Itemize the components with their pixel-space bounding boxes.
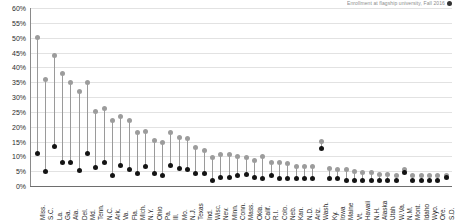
x-axis-tick-label: Mass. <box>248 188 254 220</box>
x-axis-tick-label: S.D. <box>449 188 455 220</box>
data-point-lower <box>202 171 207 176</box>
x-axis-tick-label: Conn. <box>240 188 246 220</box>
connector-line <box>179 137 180 168</box>
connector-line <box>37 38 38 154</box>
connector-line <box>229 155 230 177</box>
data-point-upper <box>344 167 349 172</box>
data-point-lower <box>43 169 48 174</box>
y-axis-tick-label: 15% <box>12 138 26 145</box>
x-axis-tick-label: Ark. <box>115 188 121 220</box>
data-point-upper <box>277 160 282 165</box>
data-point-lower <box>127 167 132 172</box>
data-point-lower <box>335 176 340 181</box>
x-axis-tick-label: Utah <box>390 188 396 220</box>
connector-line <box>195 147 196 173</box>
x-axis-tick-label: Tenn. <box>98 188 104 220</box>
data-point-lower <box>294 176 299 181</box>
connector-line <box>104 109 105 162</box>
data-point-upper <box>168 130 173 135</box>
data-point-upper <box>152 138 157 143</box>
x-axis-tick-label: N.M. <box>407 188 413 220</box>
data-point-upper <box>310 164 315 169</box>
x-axis-tick-label: Ore. <box>440 188 446 220</box>
connector-line <box>187 139 188 170</box>
x-axis-tick-label: Mich. <box>140 188 146 220</box>
x-axis-tick-label: Ohio <box>157 188 163 220</box>
data-point-lower <box>269 173 274 178</box>
y-axis-tick-label: 30% <box>12 94 26 101</box>
x-axis-tick-label: Maine <box>348 188 354 220</box>
x-axis-tick-label: Iowa <box>340 188 346 220</box>
connector-line <box>112 121 113 175</box>
data-point-lower <box>160 173 165 178</box>
y-axis-tick-label: 5% <box>16 168 26 175</box>
data-point-upper <box>352 169 357 174</box>
x-axis-tick-label: Wisc. <box>215 188 221 220</box>
data-point-upper <box>110 118 115 123</box>
data-point-lower <box>35 151 40 156</box>
y-axis-labels: 0%5%10%15%20%25%30%35%40%45%50%55%60% <box>0 8 28 186</box>
data-point-lower <box>327 176 332 181</box>
chart-screenshot: Enrollment at flagship university, Fall … <box>0 0 456 221</box>
data-point-lower <box>252 175 257 180</box>
x-axis-tick-label: Alaska <box>382 188 388 220</box>
connector-line <box>54 55 55 146</box>
connector-line <box>145 131 146 166</box>
y-axis-tick-label: 10% <box>12 153 26 160</box>
data-point-upper <box>235 154 240 159</box>
x-axis-tick-label: Nev. <box>223 188 229 220</box>
y-axis-tick-label: 50% <box>12 34 26 41</box>
data-point-lower <box>260 176 265 181</box>
y-axis-tick-label: 40% <box>12 64 26 71</box>
gridline <box>30 38 452 39</box>
data-point-upper <box>360 170 365 175</box>
x-axis-tick-label: Ariz. <box>315 188 321 220</box>
data-point-lower <box>419 178 424 183</box>
chart-caption-text: Enrollment at flagship university, Fall … <box>347 0 445 6</box>
x-axis-tick-label: Ala. <box>73 188 79 220</box>
x-axis-tick-label: N.Y. <box>148 188 154 220</box>
data-point-lower <box>435 178 440 183</box>
x-axis-tick-label: N.C. <box>107 188 113 220</box>
x-axis-tick-label: W.Va. <box>399 188 405 220</box>
data-point-lower <box>444 175 449 180</box>
connector-line <box>70 82 71 162</box>
gridline <box>30 67 452 68</box>
data-point-upper <box>285 161 290 166</box>
x-axis-tick-label: Ga. <box>65 188 71 220</box>
data-point-upper <box>60 71 65 76</box>
x-axis-tick-label: Mont. <box>415 188 421 220</box>
data-point-lower <box>77 168 82 173</box>
connector-line <box>212 158 213 180</box>
x-axis-tick-label: Neb. <box>290 188 296 220</box>
data-point-lower <box>227 175 232 180</box>
data-point-upper <box>185 136 190 141</box>
data-point-upper <box>85 80 90 85</box>
gridline <box>30 127 452 128</box>
x-axis-tick-label: Idaho <box>424 188 430 220</box>
x-axis-tick-label: Wash. <box>323 188 329 220</box>
gridline <box>30 156 452 157</box>
data-point-upper <box>369 170 374 175</box>
x-axis-tick-label: Fla. <box>132 188 138 220</box>
data-point-lower <box>235 173 240 178</box>
chart-caption: Enrollment at flagship university, Fall … <box>347 0 452 6</box>
connector-line <box>62 73 63 162</box>
gridline <box>30 53 452 54</box>
data-point-upper <box>327 166 332 171</box>
data-point-upper <box>302 164 307 169</box>
y-axis-tick-label: 25% <box>12 108 26 115</box>
gridline <box>30 142 452 143</box>
data-point-upper <box>77 89 82 94</box>
data-point-upper <box>294 164 299 169</box>
x-axis-tick-label: La. <box>57 188 63 220</box>
data-point-lower <box>52 144 57 149</box>
y-axis-line <box>30 8 31 186</box>
gridline <box>30 97 452 98</box>
y-axis-tick-label: 45% <box>12 49 26 56</box>
legend-black-dot-icon <box>447 1 452 6</box>
x-axis-tick-label: Hawaii <box>365 188 371 220</box>
connector-line <box>87 82 88 154</box>
x-axis-labels: Miss.S.C.La.Ga.Ala.Del.Md.Tenn.N.C.Ark.V… <box>30 188 452 221</box>
data-point-lower <box>110 173 115 178</box>
